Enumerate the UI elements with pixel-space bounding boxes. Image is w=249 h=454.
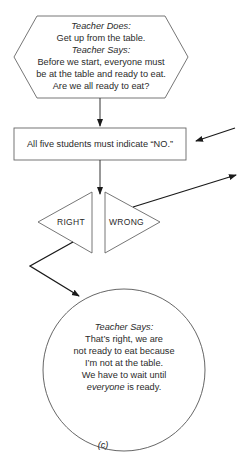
figure-label: (c) [88,439,118,451]
wrong-label: WRONG [109,217,144,227]
teacher-says-line-3: Are we all ready to eat? [20,80,182,92]
hexagon-text: Teacher Does: Get up from the table. Tea… [20,20,182,92]
circle-line-4: We have to wait until [54,369,194,381]
teacher-does-text: Get up from the table. [20,32,182,44]
incoming-arrow [196,128,235,141]
emphasis-everyone: everyone [87,382,125,392]
teacher-says-heading: Teacher Says: [20,44,182,56]
circle-text: Teacher Says: That’s right, we are not r… [54,321,194,393]
circle-line-1: That’s right, we are [54,333,194,345]
right-label: RIGHT [57,217,85,227]
circle-line-2: not ready to eat because [54,345,194,357]
teacher-says-line-1: Before we start, everyone must [20,56,182,68]
circle-line-5: everyone is ready. [54,381,194,393]
teacher-does-heading: Teacher Does: [20,20,182,32]
wrong-outgoing-arrow [133,175,236,207]
right-path-arrow [30,242,79,296]
student-response-text: All five students must indicate “NO.” [14,138,186,150]
circle-line-5-rest: is ready. [125,382,162,392]
circle-heading: Teacher Says: [54,321,194,333]
teacher-says-line-2: be at the table and ready to eat. [20,68,182,80]
circle-line-3: I’m not at the table. [54,357,194,369]
